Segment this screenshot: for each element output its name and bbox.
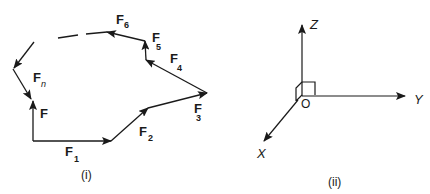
svg-text:F: F (139, 124, 147, 139)
label-f6: F 6 (116, 12, 129, 30)
svg-text:F: F (65, 144, 73, 159)
axis-label-z: Z (309, 17, 319, 32)
vector-f6 (107, 32, 145, 41)
svg-text:F: F (116, 12, 124, 27)
dashed-continuation (58, 35, 78, 38)
caption-i: (i) (81, 168, 92, 182)
coordinate-axes (264, 25, 405, 141)
vector-f-n-minus-1 (14, 42, 34, 68)
svg-text:F: F (33, 70, 41, 85)
label-f: F (40, 106, 48, 121)
svg-text:4: 4 (177, 63, 182, 73)
svg-text:6: 6 (124, 20, 129, 30)
svg-text:5: 5 (156, 42, 161, 52)
label-f5: F 5 (152, 30, 161, 52)
x-axis (264, 100, 298, 141)
svg-text:3: 3 (196, 113, 201, 123)
caption-ii: (ii) (328, 175, 341, 189)
vector-f6-tail (86, 32, 107, 34)
vector-f5 (145, 41, 146, 60)
label-f1: F 1 (65, 144, 79, 164)
axis-label-x: X (256, 146, 267, 161)
origin-label: O (301, 97, 310, 111)
svg-text:2: 2 (148, 133, 153, 143)
label-fn: F n (33, 70, 46, 89)
svg-text:n: n (41, 79, 46, 89)
vector-fn (13, 69, 31, 99)
label-f4: F 4 (170, 51, 182, 73)
figure-canvas: F F 1 F 2 F 3 F 4 F 5 F 6 F n (i) Z Y X … (0, 0, 430, 194)
svg-text:F: F (40, 106, 48, 121)
label-f2: F 2 (139, 124, 153, 143)
svg-text:1: 1 (74, 154, 79, 164)
axis-label-y: Y (414, 92, 424, 107)
label-f3: F 3 (194, 101, 202, 123)
